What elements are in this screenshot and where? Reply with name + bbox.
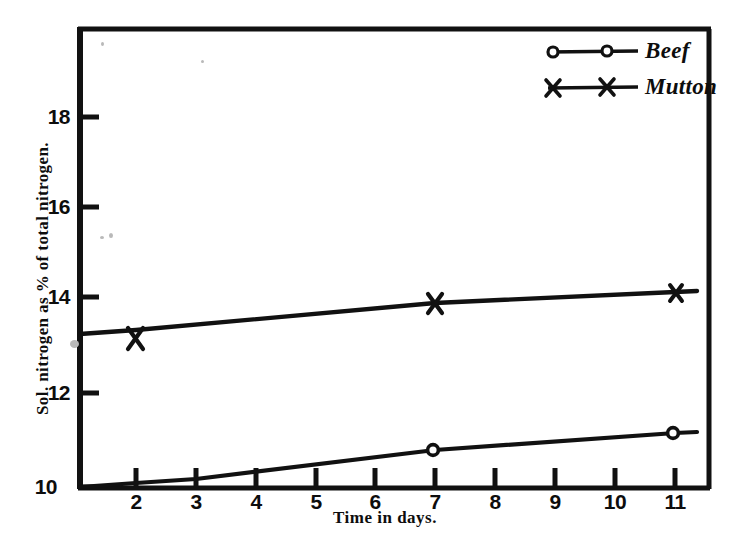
legend-label-beef: Beef — [645, 38, 690, 64]
y-tick-label-18: 18 — [24, 105, 70, 129]
x-tick-label-8: 8 — [478, 490, 512, 514]
chart-canvas — [0, 0, 745, 546]
legend-beef-line — [548, 51, 638, 52]
x-axis-title: Time in days. — [333, 508, 437, 528]
x-tick-label-2: 2 — [119, 490, 153, 514]
scan-speckle — [70, 340, 79, 348]
x-tick-label-4: 4 — [239, 490, 273, 514]
legend-beef-marker-right — [602, 46, 612, 56]
scan-speckle — [101, 42, 104, 46]
mutton-line — [80, 291, 697, 334]
scan-speckle — [100, 236, 104, 239]
y-tick-label-10: 10 — [11, 475, 57, 499]
x-tick-label-10: 10 — [598, 490, 632, 514]
series-mutton — [80, 285, 697, 349]
figure: 18 16 14 12 10 2 3 4 5 6 7 8 9 10 11 Sol… — [0, 0, 745, 546]
beef-marker-day7 — [428, 445, 439, 456]
x-tick-label-5: 5 — [299, 490, 333, 514]
x-tick-label-9: 9 — [538, 490, 572, 514]
y-axis-title: Sol. nitrogen as % of total nitrogen. — [33, 142, 53, 415]
series-beef — [80, 428, 697, 487]
x-tick-label-3: 3 — [179, 490, 213, 514]
legend-swatches — [546, 46, 638, 96]
plot-frame — [78, 27, 711, 489]
x-tick-label-11: 11 — [658, 490, 692, 514]
scan-speckle — [201, 60, 204, 63]
legend-mutton-line — [548, 87, 638, 88]
scan-speckle — [109, 233, 113, 238]
beef-marker-day11 — [668, 428, 679, 439]
legend-label-mutton: Mutton — [645, 74, 717, 100]
beef-line — [80, 432, 697, 487]
legend-beef-marker-left — [548, 47, 558, 57]
